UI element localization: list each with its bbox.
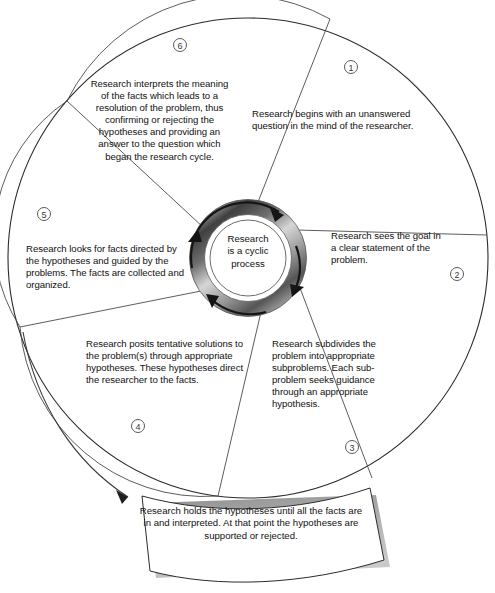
center-line-3: process [203, 258, 293, 270]
segment-text-2: Research sees the goal in a clear statem… [331, 230, 441, 266]
segment-text-1: Research begins with an unanswered quest… [252, 108, 424, 132]
segment-text-6: Research interprets the meaning of the f… [86, 78, 233, 163]
banner-text: Research holds the hypotheses until all … [135, 505, 367, 542]
segment-number-2: 2 [450, 267, 464, 281]
segment-number-6: 6 [173, 38, 187, 52]
research-cycle-diagram: Research is a cyclic process Research be… [0, 0, 495, 593]
segment-text-3: Research subdivides the problem into app… [272, 338, 384, 411]
segment-number-3: 3 [345, 440, 359, 454]
segment-number-5: 5 [37, 207, 51, 221]
segment-number-1: 1 [344, 60, 358, 74]
center-line-1: Research [203, 233, 293, 245]
center-label: Research is a cyclic process [203, 233, 293, 270]
segment-text-4: Research posits tentative solutions to t… [86, 338, 258, 386]
center-line-2: is a cyclic [203, 245, 293, 257]
segment-number-4: 4 [131, 419, 145, 433]
segment-text-5: Research looks for facts directed by the… [26, 243, 191, 291]
